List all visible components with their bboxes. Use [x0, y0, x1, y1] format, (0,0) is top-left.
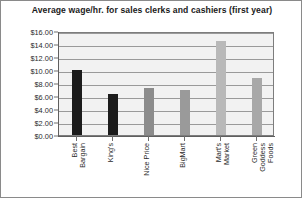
y-axis-tick-mark	[54, 58, 58, 59]
x-axis-tick-label: Best Bargain	[71, 143, 82, 197]
gridline	[59, 98, 273, 99]
gridline	[59, 111, 273, 112]
y-axis-tick-label: $8.00	[3, 80, 53, 89]
x-axis-tick-mark	[184, 136, 185, 141]
x-axis-line	[58, 136, 275, 137]
x-axis-tick-label: Green Goddess Foods	[251, 143, 262, 197]
gridline	[59, 59, 273, 60]
x-axis-tick-label: King's	[107, 143, 118, 197]
plot-area	[58, 32, 274, 136]
y-axis-tick-label: $12.00	[3, 54, 53, 63]
x-axis-tick-label: Mart's Market	[215, 143, 226, 197]
y-axis-tick-mark	[54, 32, 58, 33]
y-axis-line	[58, 32, 59, 137]
chart-title: Average wage/hr. for sales clerks and ca…	[1, 5, 302, 15]
chart-figure: Average wage/hr. for sales clerks and ca…	[0, 0, 302, 198]
x-axis-tick-mark	[256, 136, 257, 141]
y-axis-tick-mark	[54, 71, 58, 72]
bar	[180, 90, 190, 136]
y-axis-tick-mark	[54, 45, 58, 46]
y-axis-tick-mark	[54, 123, 58, 124]
gridline	[59, 85, 273, 86]
y-axis-tick-label: $6.00	[3, 93, 53, 102]
bar	[252, 78, 262, 135]
gridline	[59, 72, 273, 73]
bar	[216, 41, 226, 135]
x-axis-tick-label: Nice Price	[143, 143, 154, 197]
y-axis-tick-label: $4.00	[3, 106, 53, 115]
x-axis-tick-mark	[112, 136, 113, 141]
y-axis-tick-label: $14.00	[3, 41, 53, 50]
y-axis-tick-mark	[54, 84, 58, 85]
x-axis-tick-label: BigMart	[179, 143, 190, 197]
x-axis-tick-mark	[148, 136, 149, 141]
y-axis-tick-label: $10.00	[3, 67, 53, 76]
y-axis-tick-label: $2.00	[3, 119, 53, 128]
gridline	[59, 124, 273, 125]
gridline	[59, 33, 273, 34]
y-axis-tick-label: $16.00	[3, 28, 53, 37]
y-axis-tick-mark	[54, 110, 58, 111]
y-axis-tick-mark	[54, 97, 58, 98]
bar	[72, 70, 82, 135]
bar	[108, 94, 118, 135]
x-axis-tick-mark	[220, 136, 221, 141]
y-axis-tick-label: $0.00	[3, 132, 53, 141]
gridline	[59, 46, 273, 47]
y-axis-tick-mark	[54, 136, 58, 137]
bar	[144, 88, 154, 135]
x-axis-tick-mark	[76, 136, 77, 141]
